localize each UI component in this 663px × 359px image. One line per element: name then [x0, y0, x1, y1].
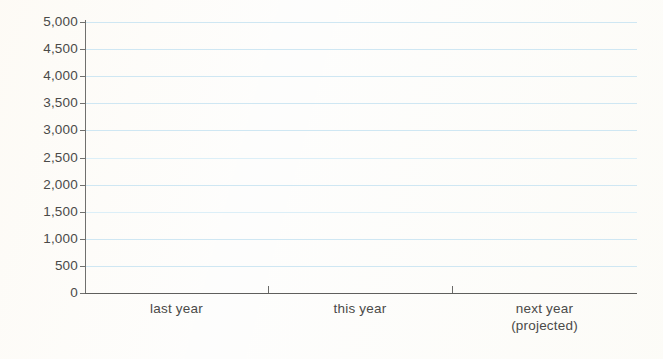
gridline-3000 — [85, 130, 637, 131]
plot-area — [85, 22, 637, 293]
y-tick-3500 — [80, 103, 85, 104]
gridline-1000 — [85, 239, 637, 240]
x-axis-label-next-year: next year (projected) — [452, 300, 637, 334]
y-tick-500 — [80, 266, 85, 267]
y-tick-2500 — [80, 158, 85, 159]
gridline-2500 — [85, 158, 637, 159]
x-axis-label-last-year-line1: last year — [150, 301, 203, 316]
x-axis-label-this-year: this year — [268, 300, 452, 317]
y-tick-1000 — [80, 239, 85, 240]
x-axis-line — [85, 293, 637, 295]
gridline-4500 — [85, 49, 637, 50]
y-axis-label-3000: 3,000 — [0, 123, 78, 137]
y-axis-label-4000: 4,000 — [0, 69, 78, 83]
y-tick-0 — [80, 293, 85, 294]
gridline-2000 — [85, 185, 637, 186]
y-axis-line — [85, 20, 86, 294]
y-axis-label-4500: 4,500 — [0, 42, 78, 56]
gridline-500 — [85, 266, 637, 267]
y-tick-2000 — [80, 185, 85, 186]
y-tick-3000 — [80, 130, 85, 131]
y-axis-label-1000: 1,000 — [0, 232, 78, 246]
gridline-1500 — [85, 212, 637, 213]
y-axis-label-0: 0 — [0, 286, 78, 300]
y-tick-5000 — [80, 22, 85, 23]
y-axis-label-1500: 1,500 — [0, 205, 78, 219]
x-axis-label-last-year: last year — [85, 300, 268, 317]
gridline-4000 — [85, 76, 637, 77]
y-tick-4500 — [80, 49, 85, 50]
y-axis-label-2500: 2,500 — [0, 151, 78, 165]
y-axis-label-2000: 2,000 — [0, 178, 78, 192]
gridline-5000 — [85, 22, 637, 23]
y-axis-label-5000: 5,000 — [0, 15, 78, 29]
y-axis-label-3500: 3,500 — [0, 96, 78, 110]
y-tick-1500 — [80, 212, 85, 213]
x-axis-label-next-year-line2: (projected) — [452, 317, 637, 334]
y-axis-label-500: 500 — [0, 259, 78, 273]
y-tick-4000 — [80, 76, 85, 77]
gridline-3500 — [85, 103, 637, 104]
x-axis-label-next-year-line1: next year — [516, 301, 573, 316]
x-tick-separator-1 — [268, 286, 269, 293]
x-axis-label-this-year-line1: this year — [334, 301, 387, 316]
empty-bar-chart-figure: 5,000 4,500 4,000 3,500 3,000 2,500 2,00… — [0, 0, 663, 359]
x-tick-separator-2 — [452, 286, 453, 293]
